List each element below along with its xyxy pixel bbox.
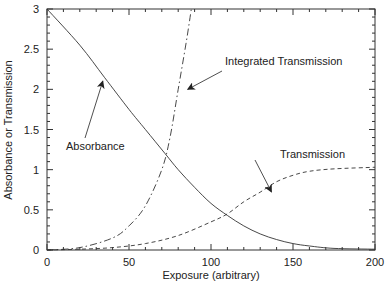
series-integrated-transmission xyxy=(47,9,191,250)
y-tick-label: 0.5 xyxy=(24,204,39,216)
x-tick-label: 50 xyxy=(123,256,135,268)
y-tick-label: 2 xyxy=(33,83,39,95)
y-tick-label: 0 xyxy=(33,244,39,256)
y-tick-label: 3 xyxy=(33,3,39,15)
annotation-transmission: Transmission xyxy=(280,148,345,160)
annotation-absorbance: Absorbance xyxy=(66,140,125,152)
series-absorbance xyxy=(47,9,375,249)
annotation-arrow-icon xyxy=(188,71,222,89)
y-tick-label: 1 xyxy=(33,164,39,176)
absorbance-transmission-chart: 05010015020000.511.522.53 Exposure (arbi… xyxy=(0,0,389,285)
series-transmission xyxy=(47,167,375,250)
annotation-arrow-icon xyxy=(255,160,271,192)
data-series xyxy=(47,9,375,250)
y-tick-label: 2.5 xyxy=(24,43,39,55)
x-tick-label: 0 xyxy=(44,256,50,268)
y-tick-label: 1.5 xyxy=(24,124,39,136)
x-axis-label: Exposure (arbitrary) xyxy=(162,269,259,281)
y-axis-label: Absorbance or Transmission xyxy=(2,60,14,199)
x-tick-label: 100 xyxy=(202,256,220,268)
annotations: AbsorbanceIntegrated TransmissionTransmi… xyxy=(66,55,345,192)
annotation-integrated-transmission: Integrated Transmission xyxy=(225,55,342,67)
x-tick-label: 150 xyxy=(284,256,302,268)
axis-ticks xyxy=(47,9,375,250)
x-tick-label: 200 xyxy=(366,256,384,268)
plot-frame xyxy=(47,9,375,250)
annotation-arrow-icon xyxy=(85,81,103,138)
